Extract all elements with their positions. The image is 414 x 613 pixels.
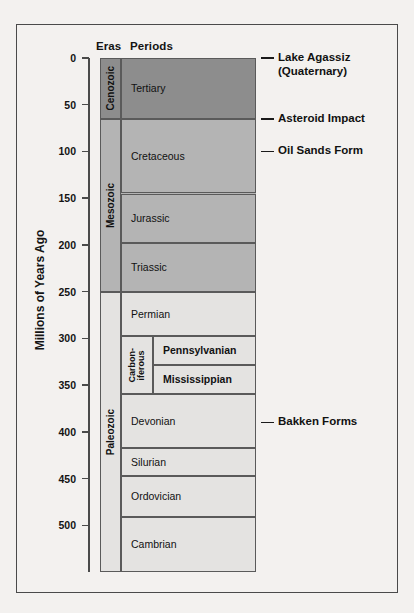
y-axis-tick — [82, 525, 89, 527]
period-label: Ordovician — [122, 490, 181, 502]
period-cell-permian: Permian — [121, 292, 256, 336]
period-cell-devonian: Devonian — [121, 394, 256, 447]
period-label: Cretaceous — [122, 150, 185, 162]
period-label: Triassic — [122, 261, 167, 273]
y-axis-tick — [82, 431, 89, 433]
period-cell-cretaceous: Cretaceous — [121, 119, 256, 194]
subperiod-label: Mississippian — [154, 373, 232, 385]
y-axis-tick-label: 450 — [30, 473, 76, 485]
period-label: Jurassic — [122, 212, 170, 224]
era-label: Cenozoic — [105, 66, 116, 110]
annotation-leader-line — [261, 151, 274, 153]
period-cell-tertiary: Tertiary — [121, 58, 256, 119]
period-cell-silurian: Silurian — [121, 448, 256, 476]
y-axis-tick — [82, 151, 89, 153]
period-cell-jurassic: Jurassic — [121, 194, 256, 244]
annotation-leader-line — [261, 57, 274, 59]
y-axis-tick — [82, 338, 89, 340]
y-axis-tick — [82, 291, 89, 293]
period-label: Tertiary — [122, 82, 165, 94]
period-label: Permian — [122, 308, 170, 320]
annotation-label: Lake Agassiz (Quaternary) — [278, 51, 350, 78]
y-axis-tick — [82, 244, 89, 246]
subperiod-cell-mississippian: Mississippian — [153, 365, 256, 395]
y-axis-tick — [82, 57, 89, 59]
annotation-label: Oil Sands Form — [278, 144, 363, 158]
y-axis-tick-label: 0 — [30, 52, 76, 64]
geologic-time-scale-figure: Millions of Years Ago Eras Periods 05010… — [0, 0, 414, 613]
era-cell-cenozoic: Cenozoic — [100, 58, 121, 119]
y-axis-tick-label: 250 — [30, 286, 76, 298]
y-axis-tick — [82, 197, 89, 199]
era-cell-mesozoic: Mesozoic — [100, 119, 121, 292]
period-label: Cambrian — [122, 538, 177, 550]
y-axis-tick-label: 200 — [30, 239, 76, 251]
era-cell-paleozoic: Paleozoic — [100, 292, 121, 572]
y-axis-tick — [82, 104, 89, 106]
period-label: Devonian — [122, 415, 175, 427]
y-axis-tick-label: 300 — [30, 332, 76, 344]
period-label: Carbon- iferous — [128, 348, 147, 383]
y-axis-tick-label: 400 — [30, 426, 76, 438]
period-label: Silurian — [122, 456, 166, 468]
annotation-label: Asteroid Impact — [278, 112, 365, 126]
annotation-leader-line — [261, 422, 274, 424]
y-axis-line — [88, 58, 90, 572]
annotation-leader-line — [261, 118, 274, 120]
y-axis-tick-label: 150 — [30, 192, 76, 204]
period-cell-triassic: Triassic — [121, 243, 256, 292]
era-label: Mesozoic — [105, 183, 116, 228]
column-header-eras: Eras — [96, 40, 121, 52]
y-axis-tick — [82, 478, 89, 480]
annotation-label: Bakken Forms — [278, 415, 357, 429]
subperiod-label: Pennsylvanian — [154, 344, 237, 356]
y-axis-tick-label: 100 — [30, 145, 76, 157]
column-header-periods: Periods — [130, 40, 173, 52]
chart-body: CenozoicMesozoicPaleozoic TertiaryCretac… — [100, 58, 256, 572]
y-axis-tick-label: 500 — [30, 519, 76, 531]
period-cell-ordovician: Ordovician — [121, 476, 256, 517]
period-cell-carboniferous: Carbon- iferous — [121, 336, 153, 395]
era-label: Paleozoic — [105, 409, 116, 455]
subperiod-cell-pennsylvanian: Pennsylvanian — [153, 336, 256, 365]
period-cell-cambrian: Cambrian — [121, 517, 256, 572]
y-axis-tick — [82, 384, 89, 386]
y-axis-tick-label: 350 — [30, 379, 76, 391]
y-axis-tick-label: 50 — [30, 99, 76, 111]
